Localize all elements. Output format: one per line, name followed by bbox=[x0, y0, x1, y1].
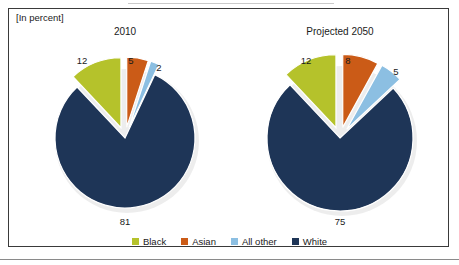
bottom-rule bbox=[0, 259, 459, 260]
legend-label: All other bbox=[242, 236, 277, 247]
legend-swatch-icon bbox=[231, 238, 238, 245]
legend-item-all-other[interactable]: All other bbox=[231, 236, 277, 247]
chart-title-projected-2050: Projected 2050 bbox=[272, 26, 408, 37]
pie-chart-2010-svg bbox=[24, 40, 224, 220]
slice-label-2050-asian: 8 bbox=[335, 55, 361, 66]
slice-label-2010-black: 12 bbox=[68, 55, 96, 66]
chart-title-2010: 2010 bbox=[60, 26, 190, 37]
legend-swatch-icon bbox=[181, 238, 188, 245]
pie-chart-projected-2050-svg bbox=[240, 40, 448, 220]
legend-label: Asian bbox=[192, 236, 216, 247]
legend-item-asian[interactable]: Asian bbox=[181, 236, 216, 247]
chart-legend: BlackAsianAll otherWhite bbox=[0, 236, 459, 247]
legend-label: Black bbox=[143, 236, 166, 247]
slice-label-2050-black: 12 bbox=[292, 55, 320, 66]
scan-artifact-line bbox=[128, 3, 334, 4]
slice-label-2010-all-other: 2 bbox=[146, 62, 172, 73]
figure-container: [In percent] 2010 Projected 2050 12 5 2 … bbox=[0, 0, 459, 265]
legend-item-black[interactable]: Black bbox=[132, 236, 166, 247]
unit-label: [In percent] bbox=[16, 12, 64, 23]
slice-label-2050-white: 75 bbox=[326, 216, 354, 227]
slice-label-2050-all-other: 5 bbox=[383, 66, 409, 77]
pie-chart-projected-2050 bbox=[240, 40, 448, 220]
legend-item-white[interactable]: White bbox=[292, 236, 327, 247]
slice-label-2010-white: 81 bbox=[111, 216, 139, 227]
slice-label-2010-asian: 5 bbox=[118, 55, 144, 66]
pie-chart-2010 bbox=[24, 40, 224, 220]
legend-swatch-icon bbox=[132, 238, 139, 245]
legend-label: White bbox=[303, 236, 327, 247]
legend-swatch-icon bbox=[292, 238, 299, 245]
